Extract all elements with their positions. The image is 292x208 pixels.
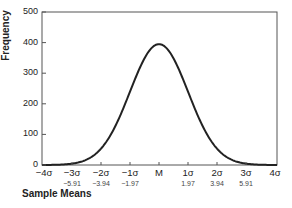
y-tick-label: 200 [14, 98, 38, 108]
y-tick-label: 500 [14, 6, 38, 16]
x-tick-label: −2σ [89, 167, 113, 178]
x-value-label: −1.97 [117, 180, 143, 187]
y-tick-label: 400 [14, 37, 38, 47]
x-value-label: 3.94 [204, 180, 230, 187]
x-tick-label: −1σ [118, 167, 142, 178]
x-value-label: −3.94 [88, 180, 114, 187]
y-axis-label: Frequency [0, 10, 11, 61]
y-axis-ticks [42, 12, 46, 165]
x-tick-label: 1σ [176, 167, 200, 178]
x-tick-label: 3σ [234, 167, 258, 178]
x-tick-label: −3σ [60, 167, 84, 178]
y-tick-label: 100 [14, 128, 38, 138]
x-axis-label: Sample Means [22, 188, 91, 199]
x-value-label: 5.91 [233, 180, 259, 187]
normal-curve [42, 44, 277, 165]
x-tick-label: 2σ [205, 167, 229, 178]
x-tick-label: −4σ [32, 167, 56, 178]
x-tick-label: M [147, 167, 171, 178]
x-value-label: 1.97 [175, 180, 201, 187]
x-tick-label: 4σ [263, 167, 287, 178]
plot-frame [42, 12, 277, 165]
x-value-label: −5.91 [59, 180, 85, 187]
y-tick-label: 300 [14, 67, 38, 77]
